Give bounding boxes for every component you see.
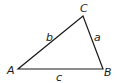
- vertex-label-c: C: [80, 2, 88, 15]
- side-label-c: c: [56, 71, 62, 83]
- side-label-a: a: [94, 31, 101, 44]
- triangle-abc: [18, 16, 103, 69]
- vertex-label-b: B: [104, 66, 112, 79]
- side-label-b: b: [46, 31, 53, 44]
- vertex-label-a: A: [6, 64, 15, 77]
- triangle-diagram: A B C a b c: [0, 0, 120, 83]
